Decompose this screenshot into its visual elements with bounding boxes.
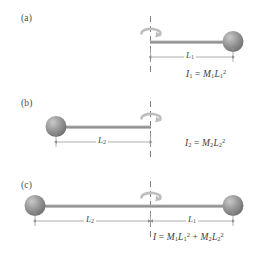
panel-b-graphic [0,85,263,168]
formula-panel-b: I2 = M2L22 [185,137,225,148]
dimension-subscript: 1 [191,54,194,60]
formula-equals: = [195,69,200,79]
formula-equals: = [159,232,164,242]
panel-b: (b) [0,85,263,168]
dimension-label-L2: L2 [96,135,108,145]
formula-mass-symbol-2: M [201,232,209,242]
formula-lhs-symbol: I [153,232,156,242]
formula-mass-symbol: M [203,69,211,79]
panel-c-graphic [0,168,263,257]
formula-exponent-2: 2 [221,231,224,238]
formula-lhs-subscript: 2 [188,141,191,148]
rod [39,205,228,208]
rod [60,126,151,129]
formula-panel-c: I = M1L12 + M2L22 [153,231,224,242]
panel-a: (a) [0,0,263,85]
dimension-label-L1: L1 [184,50,196,60]
formula-exponent: 2 [223,68,226,75]
dimension-subscript: 1 [193,218,196,224]
formula-panel-a: I1 = M1L12 [186,68,226,79]
formula-exponent-1: 2 [187,231,190,238]
formula-mass-symbol-1: M [167,232,175,242]
rotation-arrow-icon [141,193,161,202]
formula-mass-symbol: M [202,138,210,148]
dimension-label-L1: L1 [186,214,198,224]
formula-equals: = [194,138,199,148]
dimension-subscript: 2 [103,139,106,145]
moment-of-inertia-figure: (a) [0,0,263,257]
formula-lhs-subscript: 1 [189,72,192,79]
formula-exponent: 2 [222,137,225,144]
rod [150,41,228,44]
rotation-arrow-icon [141,29,161,38]
dimension-label-L2: L2 [84,214,96,224]
dimension-subscript: 2 [91,218,94,224]
panel-c: (c) [0,168,263,257]
formula-plus: + [193,232,198,242]
rotation-arrow-icon [141,114,161,123]
